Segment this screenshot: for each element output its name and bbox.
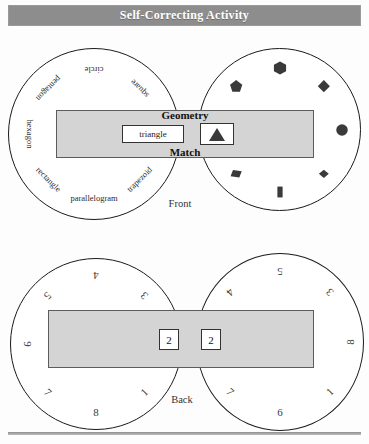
shape-label-circle: circle [85, 65, 104, 75]
wheel-number-7: 7 [224, 385, 236, 397]
front-slider-bar[interactable]: Geometry Match triangle [56, 110, 314, 158]
back-left-window: 2 [159, 329, 179, 350]
wheel-number-1: 1 [323, 385, 335, 397]
wheel-number-9: 9 [22, 341, 34, 347]
wheel-number-8: 8 [93, 406, 99, 418]
parallelogram-glyph [229, 169, 242, 178]
shape-word-window: triangle [122, 125, 184, 143]
wheel-number-1: 1 [138, 386, 150, 398]
title-banner: Self-Correcting Activity [8, 5, 361, 26]
wheel-number-7: 7 [42, 386, 54, 398]
activity-page: Self-Correcting Activity circlesquaretra… [0, 0, 369, 444]
shape-label-trapezoid: trapezoid [125, 165, 154, 194]
diamond-glyph [317, 79, 330, 92]
hexagon-glyph [272, 60, 287, 75]
page-title: Self-Correcting Activity [8, 5, 361, 26]
shape-label-hexagon: hexagon [25, 120, 35, 149]
circle-glyph [335, 123, 348, 136]
shape-label-pentagon: pentagon [34, 74, 63, 103]
wheel-number-4: 4 [93, 270, 99, 282]
diamond-small-glyph [318, 169, 329, 178]
back-right-window-value: 2 [208, 334, 214, 346]
triangle-glyph [208, 127, 226, 142]
rectangle-glyph [276, 185, 283, 198]
shape-label-square: square [128, 77, 151, 100]
shape-label-parallelogram: parallelogram [70, 193, 117, 203]
wheel-number-3: 3 [138, 290, 150, 302]
wheel-number-6: 6 [277, 406, 283, 418]
wheel-number-8: 8 [344, 339, 356, 345]
wheel-number-4: 4 [224, 286, 236, 298]
back-left-window-value: 2 [166, 334, 172, 346]
wheel-number-3: 3 [323, 286, 335, 298]
wheel-number-5: 5 [277, 266, 283, 278]
pentagon-glyph [229, 79, 243, 93]
front-caption: Front [150, 198, 210, 209]
back-slider-bar[interactable]: 2 2 [48, 310, 314, 368]
shape-figure-window [200, 123, 234, 145]
bar-top-label: Geometry [57, 109, 313, 121]
wheel-number-5: 5 [42, 290, 54, 302]
back-right-window: 2 [201, 329, 221, 350]
back-caption: Back [152, 394, 212, 405]
bar-bottom-label: Match [57, 146, 313, 158]
bottom-rule [8, 432, 361, 435]
shape-word-value: triangle [139, 129, 167, 139]
